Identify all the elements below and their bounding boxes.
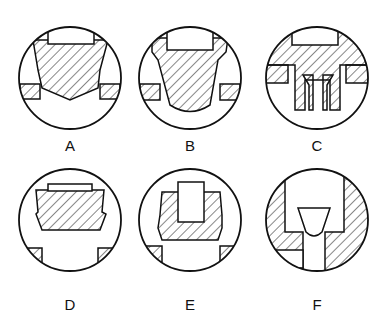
panel-d-drawing	[22, 184, 118, 264]
panel-label-a: A	[55, 137, 85, 154]
panel-label-b: B	[175, 137, 205, 154]
panel-f-drawing	[262, 165, 372, 280]
panel-label-c: C	[302, 137, 332, 154]
panel-b-drawing	[140, 26, 240, 112]
panel-label-e: E	[175, 296, 205, 313]
panel-e-drawing	[142, 182, 240, 262]
panel-label-f: F	[302, 296, 332, 313]
panel-label-d: D	[55, 296, 85, 313]
panel-c-drawing	[260, 25, 375, 110]
diagram-canvas	[0, 0, 380, 328]
panel-a-drawing	[20, 26, 120, 100]
